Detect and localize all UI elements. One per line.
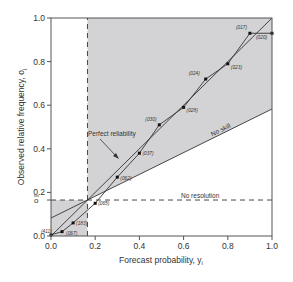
data-point-marker	[72, 221, 75, 224]
x-tick-label: 1.0	[266, 241, 278, 251]
y-tick-label: 0.0	[33, 231, 45, 241]
data-point-count-label: (030)	[145, 117, 157, 122]
y-tick-label: 0.4	[33, 144, 45, 154]
y-tick-label: 0.6	[33, 100, 45, 110]
data-point-marker	[94, 202, 97, 205]
data-point-count-label: (024)	[189, 71, 201, 76]
x-axis-label-text: Forecast probability, y	[119, 255, 202, 265]
y-tick-label: 0.8	[33, 57, 45, 67]
y-axis-label-subscript: j	[21, 69, 27, 71]
data-point-count-label: (183)	[76, 221, 88, 226]
x-tick-label: 0.2	[89, 241, 101, 251]
data-point-marker	[61, 230, 64, 233]
data-point-marker	[182, 106, 185, 109]
y-axis-label: Observed relative frequency, oj	[16, 69, 27, 185]
data-point-marker	[116, 176, 119, 179]
data-point-count-label: (062)	[120, 176, 132, 181]
data-point-marker	[226, 62, 229, 65]
data-point-count-label: (020)	[256, 35, 268, 40]
data-point-marker	[158, 123, 161, 126]
x-tick-label: 0.6	[178, 241, 190, 251]
x-tick-label: 0.4	[133, 241, 145, 251]
perfect-reliability-label: Perfect reliability	[88, 130, 136, 138]
data-point-count-label: (065)	[98, 201, 110, 206]
data-point-marker	[248, 32, 251, 35]
data-point-marker	[204, 78, 207, 81]
x-tick-label: 0.0	[45, 241, 57, 251]
y-axis-label-text: Observed relative frequency, o	[16, 70, 26, 185]
x-axis-label: Forecast probability, yi	[119, 255, 203, 266]
data-point-marker	[138, 152, 141, 155]
data-point-count-label: (037)	[142, 151, 154, 156]
x-axis-label-subscript: i	[202, 260, 203, 266]
no-resolution-label: No resolution	[181, 192, 220, 199]
data-point-count-label: (017)	[236, 25, 248, 30]
data-point-count-label: (067)	[66, 231, 78, 236]
data-point-count-label: (023)	[231, 65, 243, 70]
x-tick-label: 0.8	[222, 241, 234, 251]
climatology-label: o	[34, 196, 39, 205]
y-tick-label: 1.0	[33, 13, 45, 23]
data-point-count-label: (028)	[187, 108, 199, 113]
reliability-diagram: (411)(067)(183)(065)(062)(037)(030)(028)…	[0, 0, 293, 282]
